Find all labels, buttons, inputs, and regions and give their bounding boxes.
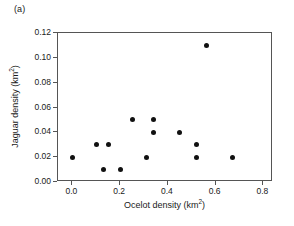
y-axis-tick-label: 0.02 [34, 152, 51, 161]
data-point [230, 155, 235, 160]
y-axis-tick-label: 0.08 [34, 77, 51, 86]
data-point [94, 142, 99, 147]
x-axis-title-text: Ocelot density (km2) [124, 200, 205, 210]
x-axis-tick-label: 0.2 [113, 187, 125, 196]
plot-area [57, 32, 272, 181]
data-point [194, 155, 199, 160]
x-axis-tick [167, 181, 168, 185]
data-point [177, 130, 182, 135]
data-point [144, 155, 149, 160]
data-point [118, 167, 123, 172]
x-axis-tick-label: 0.0 [65, 187, 77, 196]
data-point [130, 117, 135, 122]
data-point [151, 130, 156, 135]
y-axis-tick-label: 0.10 [34, 53, 51, 62]
y-axis-tick-label: 0.04 [34, 127, 51, 136]
data-point [204, 43, 209, 48]
x-axis-title: Ocelot density (km2) [57, 200, 272, 210]
data-point [70, 155, 75, 160]
x-axis-tick-label: 0.8 [257, 187, 269, 196]
x-axis-tick-label: 0.6 [209, 187, 221, 196]
y-axis-tick-label: 0.06 [34, 102, 51, 111]
x-axis-tick [262, 181, 263, 185]
data-point [101, 167, 106, 172]
x-axis-tick [119, 181, 120, 185]
y-axis-tick-label: 0.12 [34, 28, 51, 37]
x-axis-tick-label: 0.4 [161, 187, 173, 196]
data-point [194, 142, 199, 147]
x-axis-tick [215, 181, 216, 185]
scatter-plot-figure: (a) Jaguar density (km2) 0.000.020.040.0… [0, 0, 294, 226]
x-axis-tick [71, 181, 72, 185]
data-point [151, 117, 156, 122]
data-points-layer [58, 33, 271, 180]
data-point [106, 142, 111, 147]
